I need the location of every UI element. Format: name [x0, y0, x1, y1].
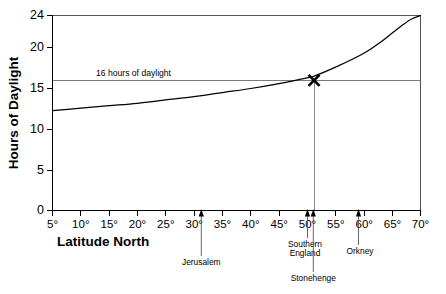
x-tick-label-30: 30°: [186, 218, 203, 230]
x-tick-label-25: 25°: [157, 218, 174, 230]
daylight-latitude-chart: 24 20 15 10 5 0 Hours of Daylight: [0, 0, 446, 294]
annotation-southern-england: Southern England: [288, 209, 322, 258]
x-tick-label-10: 10°: [72, 218, 89, 230]
y-tick-label-5: 5: [37, 163, 44, 177]
y-tick-label-15: 15: [30, 81, 44, 95]
x-axis-title: Latitude North: [57, 234, 149, 249]
annotation-label-jerusalem: Jerusalem: [182, 257, 221, 267]
y-tick-label-20: 20: [30, 40, 44, 54]
x-tick-label-45: 45°: [271, 218, 288, 230]
x-tick-label-70: 70°: [412, 218, 429, 230]
y-tick-label-10: 10: [30, 122, 44, 136]
plot-frame: [52, 16, 421, 211]
annotation-label-orkney: Orkney: [347, 246, 375, 256]
annotation-orkney: Orkney: [347, 209, 375, 256]
annotation-label-england: England: [290, 248, 321, 258]
x-tick-label-65: 65°: [384, 218, 401, 230]
reference-line-label: 16 hours of daylight: [96, 68, 172, 78]
x-axis: [52, 211, 421, 216]
x-tick-labels: 5° 10° 15° 20° 25° 30° 35° 40° 45° 50° 5…: [47, 218, 429, 230]
y-tick-labels: 24 20 15 10 5 0: [30, 8, 44, 217]
y-tick-label-24: 24: [30, 8, 44, 22]
x-tick-label-35: 35°: [214, 218, 231, 230]
x-tick-label-40: 40°: [242, 218, 259, 230]
x-tick-label-15: 15°: [101, 218, 118, 230]
y-axis-title: Hours of Daylight: [6, 56, 21, 169]
annotation-label-stonehenge: Stonehenge: [291, 273, 337, 283]
y-tick-label-0: 0: [37, 203, 44, 217]
y-axis: [47, 15, 53, 211]
chart-canvas: 24 20 15 10 5 0 Hours of Daylight: [0, 0, 446, 294]
daylight-curve-main: [53, 16, 421, 111]
x-tick-label-55: 55°: [327, 218, 344, 230]
x-tick-label-20: 20°: [129, 218, 146, 230]
x-tick-label-5: 5°: [47, 218, 58, 230]
